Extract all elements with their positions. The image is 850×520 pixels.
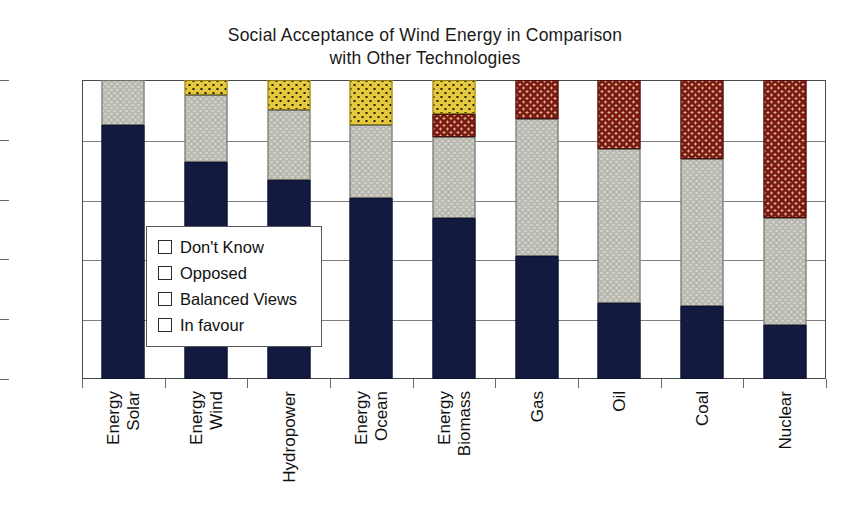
chart-title: Social Acceptance of Wind Energy in Comp…: [0, 24, 850, 70]
legend-item[interactable]: Opposed: [158, 260, 311, 286]
bar-segment-balanced[interactable]: [598, 149, 641, 303]
legend-swatch-opposed: [158, 266, 172, 280]
x-axis-label-line: Wind: [207, 391, 226, 430]
bar-group: [413, 80, 496, 379]
bar-segment-balanced[interactable]: [680, 159, 723, 306]
x-axis-tick-label: OceanEnergy: [352, 391, 391, 445]
y-axis-tick-mark: [0, 200, 9, 201]
x-axis-label-line: Coal: [693, 391, 712, 426]
x-axis-tick-mark: [165, 379, 166, 388]
bar-group: [578, 80, 661, 379]
chart-container: Social Acceptance of Wind Energy in Comp…: [0, 0, 850, 520]
x-axis-label-line: Gas: [527, 391, 546, 422]
bar-segment-balanced[interactable]: [350, 125, 393, 198]
bar-segment-infavour[interactable]: [680, 306, 723, 379]
stacked-bar[interactable]: [350, 80, 393, 379]
x-axis-tick-mark: [661, 379, 662, 388]
bar-segment-infavour[interactable]: [763, 325, 806, 379]
stacked-bar[interactable]: [102, 80, 145, 379]
bar-group: [495, 80, 578, 379]
bar-segment-balanced[interactable]: [184, 95, 227, 162]
legend-label: Balanced Views: [180, 290, 297, 309]
x-axis-tick-label: WindEnergy: [187, 391, 226, 445]
legend-swatch-infavour: [158, 318, 172, 332]
y-axis-tick-mark: [0, 259, 9, 260]
stacked-bar[interactable]: [432, 80, 475, 379]
bar-segment-dontknow[interactable]: [350, 80, 393, 125]
x-axis-label-line: Energy: [187, 391, 206, 445]
x-axis-tick-label: Gas: [527, 391, 546, 422]
bar-segment-opposed[interactable]: [598, 80, 641, 149]
x-axis-tick-label: Hydropower: [279, 391, 298, 483]
bar-segment-dontknow[interactable]: [267, 80, 310, 110]
x-axis-label-line: Nuclear: [775, 391, 794, 450]
bar-segment-balanced[interactable]: [267, 110, 310, 180]
legend-item[interactable]: Don't Know: [158, 234, 311, 260]
x-axis-tick-mark: [495, 379, 496, 388]
legend-item[interactable]: In favour: [158, 312, 311, 338]
bar-segment-dontknow[interactable]: [184, 80, 227, 95]
x-axis-label-line: Solar: [124, 391, 143, 431]
x-axis-label-line: Energy: [435, 391, 454, 445]
x-axis-tick-label: Nuclear: [775, 391, 794, 450]
bar-segment-balanced[interactable]: [763, 218, 806, 326]
legend-swatch-dontknow: [158, 240, 172, 254]
x-axis-label-line: Oil: [610, 391, 629, 412]
y-axis: 0%20%40%60%80%100%: [0, 0, 82, 379]
x-axis-label-line: Ocean: [372, 391, 391, 441]
x-axis-label-line: Biomass: [455, 391, 474, 456]
bar-segment-opposed[interactable]: [763, 80, 806, 218]
bar-segment-opposed[interactable]: [680, 80, 723, 159]
x-axis-tick-mark: [413, 379, 414, 388]
stacked-bar[interactable]: [598, 80, 641, 379]
x-axis: SolarEnergyWindEnergyHydropowerOceanEner…: [82, 379, 826, 520]
x-axis-tick-mark: [826, 379, 827, 388]
bar-segment-opposed[interactable]: [515, 80, 558, 119]
x-axis-tick-label: SolarEnergy: [104, 391, 143, 445]
bar-segment-balanced[interactable]: [515, 119, 558, 257]
bar-segment-infavour[interactable]: [432, 218, 475, 379]
y-axis-tick-mark: [0, 379, 9, 380]
x-axis-label-line: Hydropower: [279, 391, 298, 483]
chart-legend: Don't KnowOpposedBalanced ViewsIn favour: [146, 226, 322, 347]
y-axis-tick-mark: [0, 140, 9, 141]
x-axis-tick-label: BiomassEnergy: [435, 391, 474, 456]
legend-swatch-balanced: [158, 292, 172, 306]
x-axis-tick-label: Oil: [610, 391, 629, 412]
x-axis-tick-label: Coal: [693, 391, 712, 426]
x-axis-tick-mark: [82, 379, 83, 388]
x-axis-tick-mark: [247, 379, 248, 388]
stacked-bar[interactable]: [515, 80, 558, 379]
bar-segment-opposed[interactable]: [432, 114, 475, 136]
x-axis-tick-mark: [578, 379, 579, 388]
bar-segment-infavour[interactable]: [102, 125, 145, 379]
x-axis-label-line: Energy: [104, 391, 123, 445]
y-axis-tick-mark: [0, 80, 9, 81]
x-axis-tick-mark: [330, 379, 331, 388]
bar-segment-infavour[interactable]: [598, 303, 641, 379]
x-axis-tick-mark: [743, 379, 744, 388]
bar-segment-dontknow[interactable]: [432, 80, 475, 114]
legend-item[interactable]: Balanced Views: [158, 286, 311, 312]
x-axis-label-line: Energy: [352, 391, 371, 445]
bar-segment-infavour[interactable]: [515, 256, 558, 379]
stacked-bar[interactable]: [763, 80, 806, 379]
bar-segment-infavour[interactable]: [350, 198, 393, 379]
bar-segment-balanced[interactable]: [432, 137, 475, 218]
legend-label: In favour: [180, 316, 244, 335]
stacked-bar[interactable]: [680, 80, 723, 379]
bar-group: [661, 80, 744, 379]
legend-label: Opposed: [180, 264, 247, 283]
y-axis-tick-mark: [0, 319, 9, 320]
bar-segment-balanced[interactable]: [102, 80, 145, 125]
bar-group: [743, 80, 826, 379]
bar-group: [330, 80, 413, 379]
legend-label: Don't Know: [180, 238, 264, 257]
